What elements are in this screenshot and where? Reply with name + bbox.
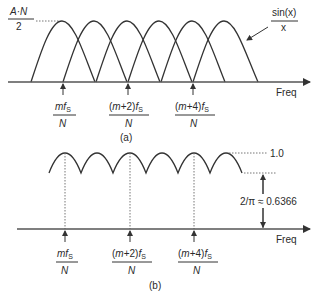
svg-text:N: N: [125, 118, 133, 129]
tick-label-b-m2-fs-over-n: (m+2)fS N: [112, 248, 152, 276]
svg-text:(m+2)fS: (m+2)fS: [112, 248, 146, 260]
panel-b: 1.0 2/π ≈ 0.6366 Freq mfS N (m+2)fS N (m…: [17, 148, 310, 291]
caption-a: (a): [120, 132, 132, 143]
freq-axis-label-b: Freq: [276, 234, 297, 245]
svg-text:N: N: [59, 118, 67, 129]
tick-label-m4-fs-over-n: (m+4)fS N: [175, 101, 215, 129]
svg-text:N: N: [61, 265, 69, 276]
diagram-canvas: A·N 2 sin(x) x Freq mfS N: [0, 0, 323, 295]
svg-text:N: N: [128, 265, 136, 276]
tick-label-m-fs-over-n: mfS N: [53, 101, 76, 129]
svg-text:N: N: [190, 118, 198, 129]
sinc-lobes: [31, 21, 258, 82]
tick-label-b-m4-fs-over-n: (m+4)fS N: [178, 248, 218, 276]
tick-label-b-m-fs-over-n: mfS N: [56, 248, 78, 276]
caption-b: (b): [149, 280, 161, 291]
sinc-label-numerator: sin(x): [272, 7, 296, 18]
svg-text:(m+2)fS: (m+2)fS: [109, 101, 143, 113]
sinc-label-denominator: x: [281, 22, 286, 33]
svg-text:mfS: mfS: [57, 248, 73, 260]
svg-text:mfS: mfS: [55, 101, 71, 113]
panel-a: A·N 2 sin(x) x Freq mfS N: [8, 6, 310, 143]
figure: A·N 2 sin(x) x Freq mfS N: [0, 0, 323, 295]
sinc-pointer-arrow: [247, 27, 268, 40]
freq-axis-label-a: Freq: [276, 87, 297, 98]
svg-text:(m+4)fS: (m+4)fS: [175, 101, 209, 113]
svg-text:(m+4)fS: (m+4)fS: [178, 248, 212, 260]
ripple-curve: [49, 153, 242, 173]
max-level-label: 1.0: [270, 148, 284, 159]
svg-text:N: N: [193, 265, 201, 276]
min-level-label: 2/π ≈ 0.6366: [240, 196, 297, 207]
peak-label-numerator: A·N: [9, 6, 28, 17]
tick-label-m2-fs-over-n: (m+2)fS N: [109, 101, 149, 129]
peak-label-denominator: 2: [16, 21, 22, 32]
